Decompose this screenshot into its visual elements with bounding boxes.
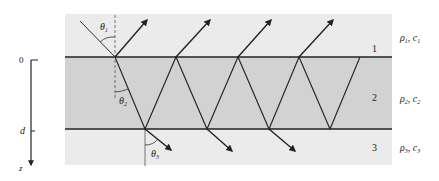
layer-3-number: 3 [372, 142, 377, 153]
z-axis-zero-label: 0 [19, 55, 24, 65]
layer-1-number: 1 [372, 43, 377, 54]
z-axis-z-label: z [18, 163, 23, 173]
layer-3-properties: ρ3, c3 [399, 142, 420, 154]
z-axis-d-label: d [20, 125, 26, 136]
layered-medium-diagram: θ1 θ2 θ3 1 2 3 ρ1, c1 ρ2, c2 ρ3, c3 0 d … [0, 0, 439, 181]
layer-2-region [65, 57, 392, 129]
layer-2-number: 2 [372, 92, 377, 103]
layer-2-properties: ρ2, c2 [399, 93, 420, 105]
layer-1-region [65, 14, 392, 57]
layer-1-properties: ρ1, c1 [399, 32, 420, 44]
